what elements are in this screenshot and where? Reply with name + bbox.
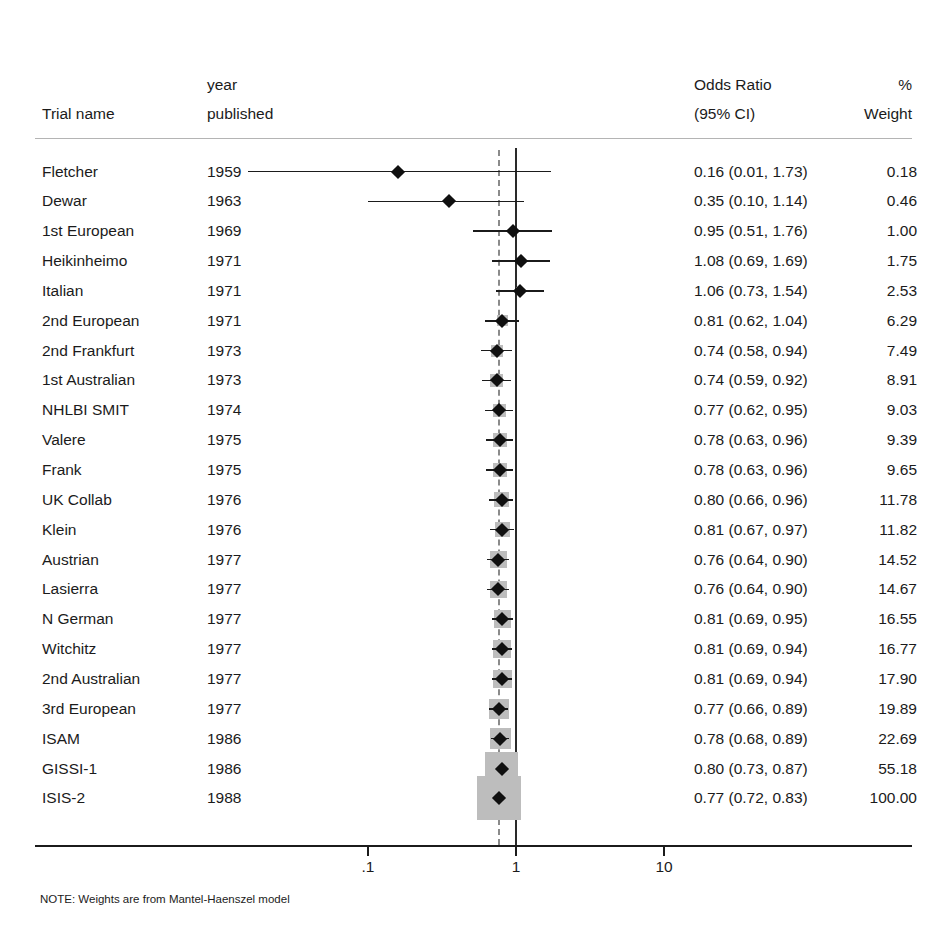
trial-name-cell: 2nd European [42, 312, 139, 330]
header-ci: (95% CI) [694, 105, 755, 123]
footnote-note: NOTE: Weights are from Mantel-Haenszel m… [40, 893, 290, 905]
year-published-cell: 1986 [207, 730, 241, 748]
odds-ratio-cell: 0.95 (0.51, 1.76) [694, 222, 808, 240]
axis-tick-label: 10 [655, 858, 672, 876]
weight-cell: 7.49 [839, 342, 917, 360]
year-published-cell: 1974 [207, 401, 241, 419]
year-published-cell: 1977 [207, 700, 241, 718]
odds-ratio-cell: 1.06 (0.73, 1.54) [694, 282, 808, 300]
trial-name-cell: Lasierra [42, 580, 98, 598]
weight-cell: 0.46 [839, 192, 917, 210]
header-percent: % [898, 76, 912, 94]
weight-cell: 22.69 [839, 730, 917, 748]
weight-cell: 16.55 [839, 610, 917, 628]
header-year-line2: published [207, 105, 273, 123]
odds-ratio-cell: 0.74 (0.59, 0.92) [694, 371, 808, 389]
axis-baseline [35, 845, 912, 847]
year-published-cell: 1971 [207, 282, 241, 300]
trial-name-cell: Valere [42, 431, 86, 449]
weight-cell: 8.91 [839, 371, 917, 389]
year-published-cell: 1969 [207, 222, 241, 240]
axis-tick-label: 1 [512, 858, 521, 876]
odds-ratio-cell: 0.77 (0.62, 0.95) [694, 401, 808, 419]
weight-cell: 14.67 [839, 580, 917, 598]
year-published-cell: 1988 [207, 789, 241, 807]
weight-cell: 9.03 [839, 401, 917, 419]
odds-ratio-cell: 0.77 (0.72, 0.83) [694, 789, 808, 807]
axis-tick-label: .1 [362, 858, 375, 876]
trial-name-cell: 1st European [42, 222, 134, 240]
odds-ratio-cell: 0.35 (0.10, 1.14) [694, 192, 808, 210]
year-published-cell: 1971 [207, 312, 241, 330]
odds-ratio-cell: 0.78 (0.63, 0.96) [694, 461, 808, 479]
weight-cell: 9.39 [839, 431, 917, 449]
weight-cell: 16.77 [839, 640, 917, 658]
trial-name-cell: Witchitz [42, 640, 96, 658]
trial-name-cell: 2nd Frankfurt [42, 342, 134, 360]
weight-cell: 17.90 [839, 670, 917, 688]
year-published-cell: 1977 [207, 580, 241, 598]
header-odds-ratio: Odds Ratio [694, 76, 772, 94]
odds-ratio-cell: 0.77 (0.66, 0.89) [694, 700, 808, 718]
header-weight: Weight [864, 105, 912, 123]
weight-cell: 9.65 [839, 461, 917, 479]
year-published-cell: 1975 [207, 431, 241, 449]
header-trial-name: Trial name [42, 105, 115, 123]
trial-name-cell: N German [42, 610, 114, 628]
trial-name-cell: 1st Australian [42, 371, 135, 389]
odds-ratio-cell: 0.16 (0.01, 1.73) [694, 163, 808, 181]
weight-cell: 2.53 [839, 282, 917, 300]
trial-name-cell: ISAM [42, 730, 80, 748]
year-published-cell: 1959 [207, 163, 241, 181]
trial-name-cell: 3rd European [42, 700, 136, 718]
year-published-cell: 1973 [207, 371, 241, 389]
odds-ratio-cell: 0.76 (0.64, 0.90) [694, 580, 808, 598]
year-published-cell: 1975 [207, 461, 241, 479]
odds-ratio-cell: 0.81 (0.69, 0.94) [694, 670, 808, 688]
axis-tick [515, 845, 516, 856]
odds-ratio-cell: 0.81 (0.69, 0.94) [694, 640, 808, 658]
year-published-cell: 1963 [207, 192, 241, 210]
weight-cell: 14.52 [839, 551, 917, 569]
year-published-cell: 1977 [207, 670, 241, 688]
trial-name-cell: NHLBI SMIT [42, 401, 129, 419]
odds-ratio-cell: 0.76 (0.64, 0.90) [694, 551, 808, 569]
odds-ratio-cell: 0.81 (0.62, 1.04) [694, 312, 808, 330]
weight-cell: 55.18 [839, 760, 917, 778]
year-published-cell: 1977 [207, 551, 241, 569]
weight-cell: 11.78 [839, 491, 917, 509]
odds-ratio-cell: 0.80 (0.73, 0.87) [694, 760, 808, 778]
odds-ratio-cell: 0.78 (0.63, 0.96) [694, 431, 808, 449]
weight-cell: 100.00 [839, 789, 917, 807]
year-published-cell: 1973 [207, 342, 241, 360]
year-published-cell: 1971 [207, 252, 241, 270]
trial-name-cell: Austrian [42, 551, 99, 569]
trial-name-cell: Frank [42, 461, 82, 479]
odds-ratio-cell: 0.74 (0.58, 0.94) [694, 342, 808, 360]
axis-tick [367, 845, 368, 856]
trial-name-cell: Dewar [42, 192, 87, 210]
trial-name-cell: ISIS-2 [42, 789, 85, 807]
year-published-cell: 1977 [207, 640, 241, 658]
trial-name-cell: Klein [42, 521, 76, 539]
odds-ratio-cell: 0.81 (0.67, 0.97) [694, 521, 808, 539]
weight-cell: 19.89 [839, 700, 917, 718]
weight-cell: 11.82 [839, 521, 917, 539]
year-published-cell: 1976 [207, 491, 241, 509]
year-published-cell: 1977 [207, 610, 241, 628]
odds-ratio-cell: 1.08 (0.69, 1.69) [694, 252, 808, 270]
point-estimate-marker [441, 194, 455, 208]
trial-name-cell: Heikinheimo [42, 252, 127, 270]
forest-plot: Trial nameyearpublishedOdds Ratio(95% CI… [0, 0, 947, 934]
trial-name-cell: 2nd Australian [42, 670, 140, 688]
trial-name-cell: Italian [42, 282, 83, 300]
weight-cell: 1.00 [839, 222, 917, 240]
weight-cell: 6.29 [839, 312, 917, 330]
point-estimate-marker [391, 164, 405, 178]
trial-name-cell: GISSI-1 [42, 760, 97, 778]
trial-name-cell: UK Collab [42, 491, 112, 509]
odds-ratio-cell: 0.78 (0.68, 0.89) [694, 730, 808, 748]
odds-ratio-cell: 0.80 (0.66, 0.96) [694, 491, 808, 509]
reference-line-or-1 [515, 148, 517, 845]
weight-cell: 0.18 [839, 163, 917, 181]
